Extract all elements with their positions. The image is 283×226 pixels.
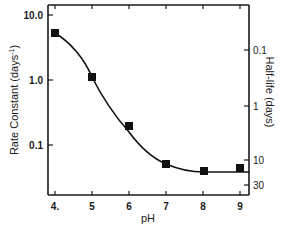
y-tick-labels: 10.0 1.0 0.1 <box>24 10 44 151</box>
data-point-ph7 <box>162 160 170 168</box>
y2-tick-label: 30 <box>253 180 265 191</box>
y-axis-title: Rate Constant (days-1) <box>8 45 20 155</box>
data-point-ph6 <box>125 122 133 130</box>
x-ticks <box>55 5 240 195</box>
data-point-ph8 <box>200 167 208 175</box>
x-tick-label: 5 <box>89 201 95 212</box>
y2-tick-label: 1 <box>253 101 259 112</box>
x-tick-label: 8 <box>200 201 206 212</box>
y2-tick-label: 0.1 <box>253 45 267 56</box>
x-tick-label: 6 <box>126 201 132 212</box>
plot-frame <box>48 5 249 195</box>
data-point-ph4 <box>51 29 59 37</box>
x-tick-label: 7 <box>163 201 169 212</box>
x-tick-label: 9 <box>237 201 243 212</box>
y-tick-label: 1.0 <box>29 75 43 86</box>
data-point-ph5 <box>88 73 96 81</box>
fitted-curve <box>55 33 249 172</box>
y-tick-label: 10.0 <box>24 10 44 21</box>
x-tick-labels: 4. 5 6 7 8 9 <box>51 201 243 212</box>
data-point-ph9 <box>236 164 244 172</box>
y2-axis-title: Half-life (days) <box>264 57 276 128</box>
y-tick-label: 0.1 <box>29 140 43 151</box>
y-axis-title-text: Rate Constant (days <box>8 54 20 155</box>
y2-tick-label: 10 <box>253 155 265 166</box>
y-axis-title-close: ) <box>8 45 20 49</box>
rate-constant-vs-ph-chart: 4. 5 6 7 8 9 pH 10.0 1.0 0.1 Rate Consta… <box>0 0 283 226</box>
x-axis-title: pH <box>141 212 155 224</box>
x-tick-label: 4. <box>51 201 60 212</box>
